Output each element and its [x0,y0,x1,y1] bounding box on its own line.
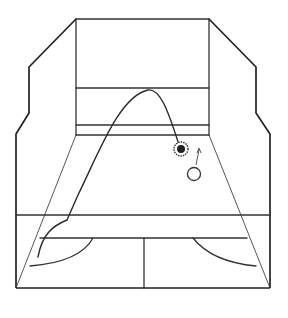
ball-hit-marker [174,142,188,156]
squash-court-diagram [0,0,288,318]
right-side-wall [209,19,270,288]
right-floor-edge [209,135,270,288]
left-side-wall [16,19,76,288]
ball-outline [188,168,201,181]
front-wall [76,19,209,135]
movement-arrow [196,148,201,165]
left-floor-edge [16,135,76,288]
ball-trajectory [38,90,180,257]
right-service-box-arc [193,238,256,266]
